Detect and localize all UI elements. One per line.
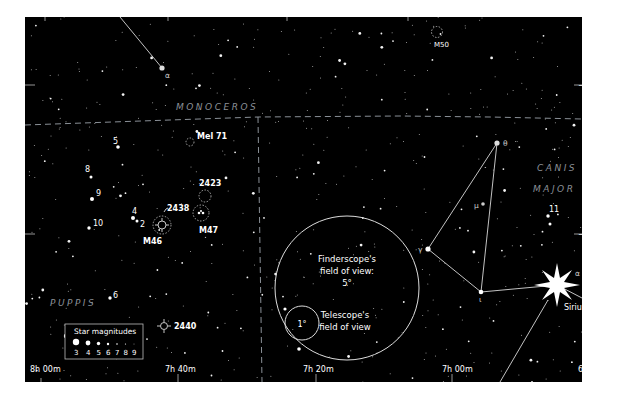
star-label-iota: ι [479,295,482,304]
legend-mag: 6 [106,349,111,357]
telescope-label-1: Telescope's [320,310,370,320]
star-label-theta: θ [503,139,508,148]
ra-label: 8h 00m [30,365,61,374]
legend-mag: 5 [97,349,101,357]
cluster-label-m50: M50 [434,41,449,49]
magnitude-legend: Star magnitudes 3 4 5 6 7 8 9 [65,324,143,359]
star-label-alpha-mon: α [165,71,170,80]
legend-mag: 4 [86,349,91,357]
cluster-label-2423: 2423 [199,179,221,188]
ra-label: 6h 40m [578,365,582,374]
finderscope-label-3: 5° [342,278,352,288]
star-number: 2 [140,220,145,229]
star-number: 4 [132,207,137,216]
star-chart: Finderscope's field of view: 5° 1° Teles… [25,17,582,382]
telescope-degree: 1° [297,320,306,329]
star-label-alpha-cma: α [575,269,580,278]
star-number: 6 [113,291,118,300]
ra-label: 7h 00m [442,365,473,374]
sirius-label: Sirius [564,303,582,312]
ra-label: 7h 20m [303,365,334,374]
finderscope-label-2: field of view: [320,266,374,276]
cluster-label-mel71: Mel 71 [197,132,227,141]
constellation-monoceros: MONOCEROS [176,102,258,112]
legend-mag: 3 [74,349,78,357]
star-number: 9 [96,189,101,198]
legend-title: Star magnitudes [74,327,136,336]
constellation-puppis: PUPPIS [50,298,96,308]
finderscope-label-1: Finderscope's [318,254,376,264]
star-label-gamma: γ [418,245,423,254]
cluster-label-m46: M46 [143,237,163,246]
cluster-label-m47: M47 [199,226,218,235]
dec-label: −10 [578,81,582,90]
legend-mag: 8 [124,349,128,357]
star-chart-canvas: Finderscope's field of view: 5° 1° Teles… [25,17,582,382]
m47-stars [198,210,205,214]
ra-label: 7h 40m [165,365,196,374]
cluster-label-2438: 2438 [167,204,190,213]
star-number: 8 [85,165,90,174]
ra-labels: 8h 00m 7h 40m 7h 20m 7h 00m 6h 40m [30,365,582,374]
star-number: 10 [93,219,103,228]
telescope-label-2: field of view [319,322,371,332]
cluster-label-2440: 2440 [174,322,197,331]
constellation-canis: CANIS [537,163,577,173]
legend-mag: 7 [115,349,119,357]
dec-label: −15 [578,230,582,239]
star-number: 11 [549,205,559,214]
star-number: 5 [113,137,118,146]
dec-labels: −10 −15 [578,81,582,239]
constellation-major: MAJOR [533,184,575,194]
sirius-star-icon [534,263,580,307]
legend-mag: 9 [132,349,136,357]
finderscope-circle [275,216,419,360]
star-label-mu: μ [474,201,479,210]
cluster-labels: Mel 71 2423 2438 M46 M47 M50 2440 Sirius [143,41,582,331]
